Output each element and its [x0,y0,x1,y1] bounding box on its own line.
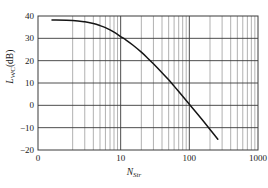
y-tick-label: 30 [0,33,34,43]
y-axis-title: LWC(dB) [5,35,16,99]
y-tick-label: −10 [0,123,34,133]
y-axis-title-sub: WC [9,67,17,78]
y-tick-label: 10 [0,78,34,88]
chart-figure: LWC(dB) NStr −20−10010203040 0101001000 [0,0,268,188]
x-tick-label: 1000 [249,153,267,163]
x-tick-label: 100 [183,153,197,163]
y-tick-label: −20 [0,145,34,155]
x-tick-label: 10 [116,153,125,163]
y-tick-label: 0 [0,100,34,110]
y-tick-label: 40 [0,11,34,21]
y-tick-label: 20 [0,56,34,66]
x-tick-label: 0 [36,153,41,163]
x-axis-title-sub: Str [133,171,141,179]
x-axis-title: NStr [0,167,268,179]
